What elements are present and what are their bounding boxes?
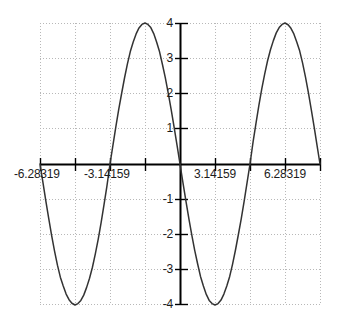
- y-tick-label-2: 2: [157, 87, 173, 99]
- x-tick-label-2pi: 6.28319: [264, 168, 306, 180]
- x-tick-label-minus-2pi: -6.28319: [14, 168, 60, 180]
- y-tick-label-3: 3: [157, 52, 173, 64]
- y-tick-label-minus-1: -1: [151, 193, 173, 205]
- x-tick-label-minus-pi: -3.14159: [84, 168, 130, 180]
- chart-background: [0, 0, 346, 324]
- x-tick-label-pi: 3.14159: [194, 168, 236, 180]
- y-tick-label-minus-3: -3: [151, 263, 173, 275]
- y-tick-label-4: 4: [157, 17, 173, 29]
- plot-area: [0, 0, 346, 324]
- y-tick-label-minus-2: -2: [151, 228, 173, 240]
- y-tick-label-1: 1: [157, 122, 173, 134]
- y-tick-label-minus-4: -4: [151, 298, 173, 310]
- chart-figure: -6.28319 -3.14159 3.14159 6.28319 4 3 2 …: [0, 0, 346, 324]
